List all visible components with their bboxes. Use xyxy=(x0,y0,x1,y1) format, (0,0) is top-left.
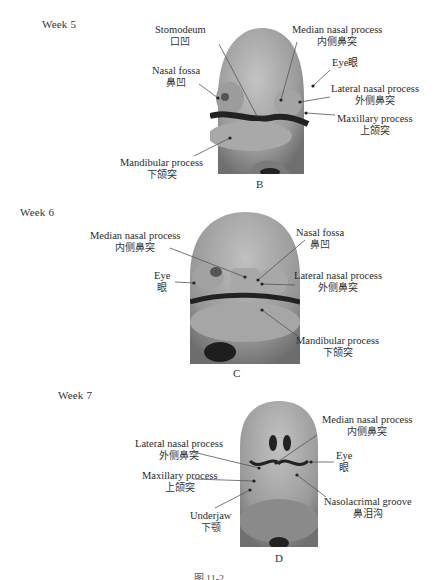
figure-caption: 图 11-2 …… xyxy=(160,570,280,580)
label-maxillary-process: Maxillary process上颌突 xyxy=(142,470,218,494)
panel-letter: B xyxy=(256,178,263,190)
label-nasal-fossa: Nasal fossa鼻凹 xyxy=(152,65,200,89)
embryo-illustration-week7 xyxy=(240,401,318,547)
label-lateral-nasal-process: Lateral nasal process外侧鼻突 xyxy=(331,83,419,107)
label-stomodeum: Stomodeum口凹 xyxy=(155,24,206,48)
embryo-illustration-week6 xyxy=(190,212,300,364)
label-median-nasal-process: Median nasal process内侧鼻突 xyxy=(292,24,382,48)
week-label: Week 5 xyxy=(42,18,76,30)
label-nasal-fossa: Nasal fossa鼻凹 xyxy=(296,227,344,251)
label-eye: Eye眼 xyxy=(154,270,170,294)
week-label: Week 7 xyxy=(58,389,92,401)
label-nasolacrimal-groove: Nasolacrimal groove鼻泪沟 xyxy=(324,496,412,520)
label-underjaw: Underjaw下颚 xyxy=(190,510,231,534)
label-maxillary-process: Maxillary process上颌突 xyxy=(337,113,413,137)
label-eye: Eye眼 xyxy=(336,450,352,474)
label-lateral-nasal-process: Lateral nasal process外侧鼻突 xyxy=(294,270,382,294)
embryo-illustration-week5 xyxy=(210,28,310,174)
panel-letter: D xyxy=(275,552,283,564)
label-eye: Eye眼 xyxy=(332,57,358,69)
label-median-nasal-process: Median nasal process内侧鼻突 xyxy=(322,414,412,438)
label-median-nasal-process: Median nasal process内侧鼻突 xyxy=(90,230,180,254)
week-label: Week 6 xyxy=(20,206,54,218)
label-mandibular-process: Mandibular process下颌突 xyxy=(120,157,203,181)
label-mandibular-process: Mandibular process下颌突 xyxy=(296,335,379,359)
panel-letter: C xyxy=(233,367,240,379)
label-lateral-nasal-process: Lateral nasal process外侧鼻突 xyxy=(135,438,223,462)
